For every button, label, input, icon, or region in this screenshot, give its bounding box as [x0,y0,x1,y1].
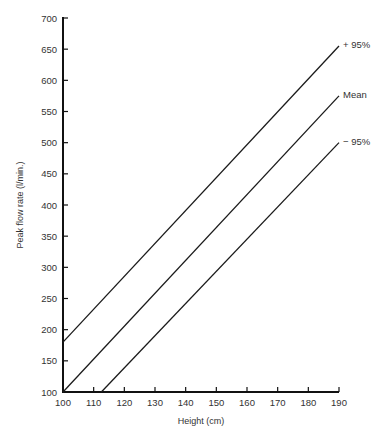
minus-95-line-label: − 95% [343,136,371,147]
x-axis-title: Height (cm) [178,416,225,426]
mean-line-label: Mean [343,89,367,100]
x-tick-label: 180 [300,397,316,408]
x-tick-label: 110 [86,397,101,408]
minus-95-line [101,143,339,392]
x-tick-label: 140 [178,397,194,408]
y-tick-label: 600 [41,75,57,86]
plus-95-line-label: + 95% [343,39,371,50]
x-tick-label: 190 [331,397,347,408]
x-tick-label: 170 [270,397,286,408]
y-tick-label: 400 [41,200,57,211]
mean-line [63,96,339,392]
y-tick-label: 200 [41,324,57,335]
x-tick-label: 160 [239,397,255,408]
x-tick-label: 150 [208,397,224,408]
y-tick-label: 350 [41,231,57,242]
y-tick-label: 300 [41,262,57,273]
series-lines: + 95%Mean− 95% [63,39,371,392]
peak-flow-chart: 100150200250300350400450500550600650700 … [0,0,373,434]
y-tick-label: 700 [41,13,57,24]
y-tick-label: 650 [41,44,57,55]
y-tick-label: 150 [41,355,57,366]
x-axis: 100110120130140150160170180190 [55,387,347,408]
y-tick-label: 500 [41,137,57,148]
y-tick-label: 550 [41,106,57,117]
y-axis: 100150200250300350400450500550600650700 [41,13,68,398]
y-axis-title: Peak flow rate (l/min.) [15,161,25,248]
plus-95-line [63,46,339,342]
y-tick-label: 450 [41,168,57,179]
x-tick-label: 100 [55,397,71,408]
x-tick-label: 130 [147,397,163,408]
x-tick-label: 120 [116,397,132,408]
y-tick-label: 100 [41,387,57,398]
y-tick-label: 250 [41,293,57,304]
